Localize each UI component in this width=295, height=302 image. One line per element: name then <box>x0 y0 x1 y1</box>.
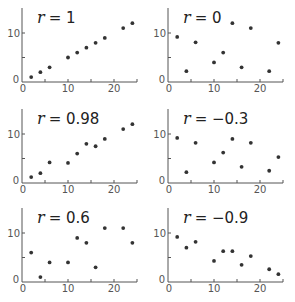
data-point <box>66 261 70 265</box>
x-tick-label: 0 <box>20 184 26 195</box>
data-point <box>249 26 253 30</box>
x-tick-label: 20 <box>108 184 121 195</box>
data-point <box>39 275 43 279</box>
data-point <box>85 142 89 146</box>
scatter-plot-svg: 01020010r= −0.3 <box>146 101 293 201</box>
data-point <box>175 235 179 239</box>
y-tick-label: 10 <box>7 228 20 239</box>
data-point <box>48 261 52 265</box>
x-tick-label: 0 <box>166 184 172 195</box>
x-tick-label: 0 <box>166 83 172 94</box>
data-point <box>194 240 198 244</box>
data-point <box>249 254 253 258</box>
data-point <box>231 249 235 253</box>
x-tick-label: 10 <box>62 184 75 195</box>
data-points <box>29 122 134 179</box>
data-point <box>66 161 70 165</box>
data-point <box>185 69 189 73</box>
data-point <box>212 259 216 263</box>
correlation-label: r= 0.6 <box>37 208 90 227</box>
data-point <box>231 21 235 25</box>
x-tick-label: 20 <box>254 184 267 195</box>
data-point <box>75 51 79 55</box>
data-point <box>121 226 125 230</box>
correlation-label: r= 0 <box>183 8 222 27</box>
data-point <box>240 165 244 169</box>
x-tick-label: 20 <box>254 283 267 294</box>
data-point <box>48 65 52 69</box>
scatter-plot-svg: 01020010r= 1 <box>0 0 147 100</box>
data-point <box>29 175 33 179</box>
data-points <box>29 21 134 79</box>
y-tick-label: 0 <box>159 274 165 285</box>
x-tick-label: 0 <box>166 283 172 294</box>
data-point <box>231 137 235 141</box>
data-point <box>277 155 281 159</box>
correlation-label: r= 0.98 <box>37 109 99 128</box>
x-tick-label: 10 <box>208 184 221 195</box>
x-tick-label: 10 <box>208 283 221 294</box>
data-point <box>75 152 79 156</box>
data-point <box>185 246 189 250</box>
scatter-plot-svg: 01020010r= 0.6 <box>0 200 147 300</box>
correlation-label: r= −0.9 <box>183 208 248 227</box>
data-point <box>221 51 225 55</box>
data-point <box>85 241 89 245</box>
data-point <box>94 41 98 45</box>
data-point <box>29 75 33 79</box>
scatter-plot-svg: 01020010r= 0 <box>146 0 293 100</box>
x-tick-label: 20 <box>108 283 121 294</box>
data-point <box>212 61 216 65</box>
data-point <box>240 263 244 267</box>
y-tick-label: 0 <box>159 74 165 85</box>
data-point <box>277 272 281 276</box>
data-point <box>249 141 253 145</box>
data-point <box>39 171 43 175</box>
scatter-plot-grid: 01020010r= 1 01020010r= 0 01020010r= 0.9… <box>0 0 295 302</box>
data-point <box>121 127 125 131</box>
data-point <box>121 26 125 30</box>
data-point <box>277 41 281 45</box>
data-point <box>48 161 52 165</box>
y-tick-label: 0 <box>159 175 165 186</box>
data-point <box>185 170 189 174</box>
y-tick-label: 10 <box>7 129 20 140</box>
data-points <box>175 136 280 174</box>
y-tick-label: 0 <box>13 74 19 85</box>
data-point <box>175 136 179 140</box>
y-tick-label: 0 <box>13 274 19 285</box>
scatter-plot-svg: 01020010r= −0.9 <box>146 200 293 300</box>
data-point <box>131 122 135 126</box>
data-point <box>194 141 198 145</box>
data-point <box>66 56 70 60</box>
x-tick-label: 0 <box>20 83 26 94</box>
data-points <box>175 235 280 276</box>
y-tick-label: 10 <box>153 228 166 239</box>
y-tick-label: 10 <box>7 28 20 39</box>
scatter-panel-r-1: 01020010r= 1 <box>0 0 147 100</box>
data-point <box>221 249 225 253</box>
data-point <box>103 226 107 230</box>
x-tick-label: 10 <box>62 283 75 294</box>
data-point <box>267 169 271 173</box>
x-tick-label: 10 <box>208 83 221 94</box>
y-tick-label: 10 <box>153 129 166 140</box>
data-point <box>267 69 271 73</box>
data-point <box>131 21 135 25</box>
x-tick-label: 20 <box>254 83 267 94</box>
data-points <box>175 21 280 73</box>
data-point <box>39 70 43 74</box>
data-point <box>131 241 135 245</box>
data-point <box>94 265 98 269</box>
data-point <box>29 251 33 255</box>
y-tick-label: 0 <box>13 175 19 186</box>
data-points <box>29 226 134 279</box>
data-point <box>94 144 98 148</box>
data-point <box>240 65 244 69</box>
data-point <box>194 40 198 44</box>
x-tick-label: 10 <box>62 83 75 94</box>
data-point <box>175 35 179 39</box>
y-tick-label: 10 <box>153 28 166 39</box>
data-point <box>103 137 107 141</box>
data-point <box>267 267 271 271</box>
